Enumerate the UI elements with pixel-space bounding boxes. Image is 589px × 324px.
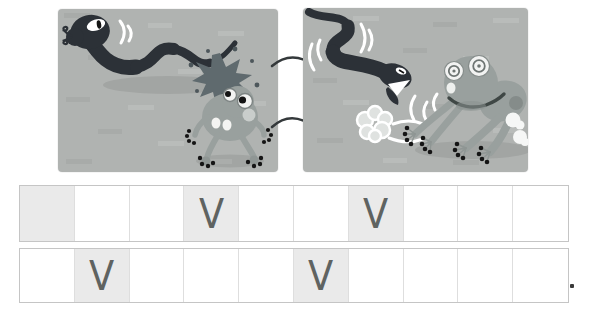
check-mark: V [363, 194, 388, 234]
answer-cell[interactable] [130, 249, 185, 302]
answer-cell[interactable] [404, 186, 459, 241]
panel1-illustration [58, 9, 278, 172]
frog-cheek [243, 109, 256, 122]
answer-cell[interactable] [513, 186, 568, 241]
answer-cell[interactable] [184, 249, 239, 302]
worksheet-page: VV VV [0, 0, 589, 324]
answer-cell[interactable]: V [184, 186, 239, 241]
panel2-illustration [303, 8, 528, 172]
answer-cell[interactable] [349, 249, 404, 302]
answer-cell[interactable] [239, 186, 294, 241]
answer-cell[interactable] [20, 186, 75, 241]
comic-panel-2 [303, 8, 528, 172]
check-mark: V [89, 256, 114, 296]
frog-back-patch [509, 96, 523, 110]
answer-row-1: VV [19, 185, 569, 242]
answer-cell[interactable] [458, 186, 513, 241]
check-mark: V [199, 194, 224, 234]
answer-cell[interactable] [75, 186, 130, 241]
answer-cell[interactable] [20, 249, 75, 302]
answer-cell[interactable] [130, 186, 185, 241]
answer-cell[interactable]: V [349, 186, 404, 241]
answer-cell[interactable] [239, 249, 294, 302]
answer-row-2: VV [19, 248, 569, 303]
answer-cell[interactable] [404, 249, 459, 302]
check-mark: V [308, 256, 333, 296]
answer-cell[interactable] [513, 249, 568, 302]
answer-cell[interactable] [458, 249, 513, 302]
motion-lines [120, 21, 131, 43]
answer-cell[interactable]: V [294, 249, 349, 302]
answer-cell[interactable] [294, 186, 349, 241]
frog-muzzle-spot [447, 83, 456, 94]
answer-cell[interactable]: V [75, 249, 130, 302]
snake-illustration [309, 12, 415, 105]
sentence-period [570, 284, 574, 288]
comic-panel-1 [58, 9, 278, 172]
